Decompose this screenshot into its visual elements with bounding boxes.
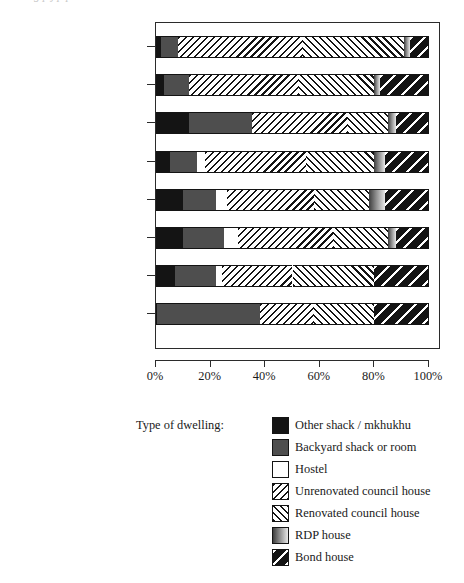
bar-segment[interactable] <box>183 227 224 249</box>
bar-row[interactable] <box>156 112 429 134</box>
bar-segment[interactable] <box>374 265 429 287</box>
bar-segment[interactable] <box>306 151 374 173</box>
bar-segment[interactable] <box>164 74 189 96</box>
clipped-top-text: g p j p p <box>0 0 464 12</box>
bar-segment[interactable] <box>175 265 216 287</box>
bar-segment[interactable] <box>189 74 298 96</box>
bar-segment[interactable] <box>298 74 374 96</box>
bar-segment[interactable] <box>183 189 216 211</box>
bar-segment[interactable] <box>388 227 396 249</box>
bar-segment[interactable] <box>224 227 238 249</box>
bar-segment[interactable] <box>396 112 429 134</box>
bar-segment[interactable] <box>156 151 170 173</box>
bar-segment[interactable] <box>388 112 396 134</box>
bar-row[interactable] <box>156 151 429 173</box>
bar-row[interactable] <box>156 189 429 211</box>
legend-item[interactable]: Other shack / mkhukhu <box>272 414 464 436</box>
bar-segment[interactable] <box>347 112 388 134</box>
legend-title: Type of dwelling: <box>136 418 224 433</box>
bar-segment[interactable] <box>293 265 375 287</box>
x-axis-label: 60% <box>289 369 349 384</box>
bar-segment[interactable] <box>396 227 429 249</box>
legend-item[interactable]: Unrenovated council house <box>272 480 464 502</box>
bar-segment[interactable] <box>410 36 429 58</box>
bar-segment[interactable] <box>205 151 306 173</box>
legend-swatch <box>272 549 289 566</box>
bar-row[interactable] <box>156 36 429 58</box>
x-axis-line <box>155 360 429 361</box>
legend-label: RDP house <box>295 528 351 543</box>
legend-item[interactable]: Bond house <box>272 546 464 568</box>
x-axis-tick <box>319 360 320 367</box>
bar-segment[interactable] <box>380 74 429 96</box>
legend-label: Other shack / mkhukhu <box>295 418 411 433</box>
legend-label: Renovated council house <box>295 506 420 521</box>
bar-row[interactable] <box>156 227 429 249</box>
bar-segment[interactable] <box>314 189 369 211</box>
legend-swatch <box>272 461 289 478</box>
bar-segment[interactable] <box>374 303 429 325</box>
legend-label: Unrenovated council house <box>295 484 431 499</box>
bar-segment[interactable] <box>252 112 348 134</box>
legend-label: Backyard shack or room <box>295 440 416 455</box>
legend-item[interactable]: RDP house <box>272 524 464 546</box>
legend: Other shack / mkhukhuBackyard shack or r… <box>272 414 464 568</box>
legend-swatch <box>272 483 289 500</box>
stacked-bars-container <box>156 23 438 347</box>
bar-segment[interactable] <box>156 189 183 211</box>
bar-segment[interactable] <box>385 151 429 173</box>
legend-swatch <box>272 527 289 544</box>
bar-segment[interactable] <box>222 265 293 287</box>
bar-segment[interactable] <box>333 227 388 249</box>
x-axis-label: 40% <box>234 369 294 384</box>
bar-segment[interactable] <box>156 227 183 249</box>
legend-label: Hostel <box>295 462 327 477</box>
bar-segment[interactable] <box>314 303 374 325</box>
bar-segment[interactable] <box>170 151 197 173</box>
bar-row[interactable] <box>156 265 429 287</box>
x-axis-label: 80% <box>343 369 403 384</box>
legend-swatch <box>272 417 289 434</box>
bar-row[interactable] <box>156 303 429 325</box>
bar-segment[interactable] <box>156 112 189 134</box>
bar-segment[interactable] <box>197 151 205 173</box>
legend-label: Bond house <box>295 550 354 565</box>
legend-item[interactable]: Backyard shack or room <box>272 436 464 458</box>
legend-item[interactable]: Renovated council house <box>272 502 464 524</box>
bar-segment[interactable] <box>385 189 429 211</box>
bar-segment[interactable] <box>156 303 260 325</box>
bar-segment[interactable] <box>374 151 385 173</box>
bar-segment[interactable] <box>238 227 334 249</box>
x-axis-tick <box>155 360 156 367</box>
bar-segment[interactable] <box>369 189 385 211</box>
bar-segment[interactable] <box>216 189 227 211</box>
legend-item[interactable]: Hostel <box>272 458 464 480</box>
bar-segment[interactable] <box>189 112 252 134</box>
bar-row[interactable] <box>156 74 429 96</box>
bar-segment[interactable] <box>303 36 404 58</box>
bar-segment[interactable] <box>161 36 177 58</box>
x-axis-tick <box>373 360 374 367</box>
x-axis-label: 100% <box>398 369 458 384</box>
x-axis-tick <box>264 360 265 367</box>
bar-segment[interactable] <box>156 74 164 96</box>
chart-plot-area <box>155 22 440 349</box>
legend-swatch <box>272 439 289 456</box>
x-axis-tick <box>210 360 211 367</box>
bar-segment[interactable] <box>178 36 304 58</box>
bar-segment[interactable] <box>156 265 175 287</box>
bar-segment[interactable] <box>227 189 314 211</box>
clipped-top-text-label: g p j p p <box>34 0 72 1</box>
legend-swatch <box>272 505 289 522</box>
bar-segment[interactable] <box>260 303 315 325</box>
x-axis-label: 0% <box>125 369 185 384</box>
x-axis-label: 20% <box>180 369 240 384</box>
x-axis-tick <box>428 360 429 367</box>
